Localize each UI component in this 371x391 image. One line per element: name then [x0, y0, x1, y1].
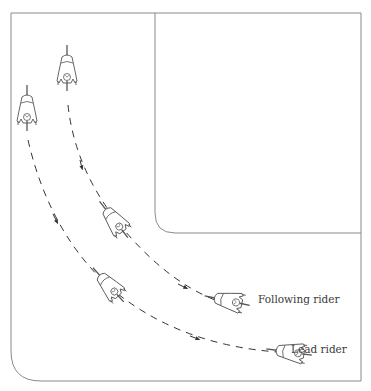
lead-rider-mid-icon — [85, 261, 131, 309]
following-rider-start-icon — [57, 45, 77, 91]
lead-rider-path — [28, 140, 278, 352]
following-rider-end-icon — [203, 286, 252, 315]
following-rider-label: Following rider — [258, 293, 340, 305]
lead-rider-start-icon — [17, 85, 37, 131]
inner-corner-edge — [155, 13, 361, 233]
following-rider-path — [68, 105, 215, 300]
lead-rider-label: Lead rider — [291, 343, 347, 355]
cornering-diagram: Following rider Lead rider — [0, 0, 371, 391]
